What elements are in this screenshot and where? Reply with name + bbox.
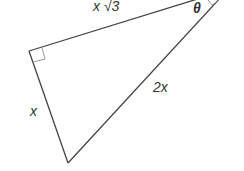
label-top-side: x √3 (92, 0, 120, 14)
triangle-diagram: x √3 θ 2x x (0, 0, 244, 171)
corner-marker (208, 0, 219, 5)
label-angle-theta: θ (193, 0, 201, 16)
label-hypotenuse: 2x (152, 79, 169, 95)
right-angle-marker (33, 48, 45, 62)
label-left-side: x (29, 103, 38, 119)
side-hypotenuse (68, 0, 222, 163)
